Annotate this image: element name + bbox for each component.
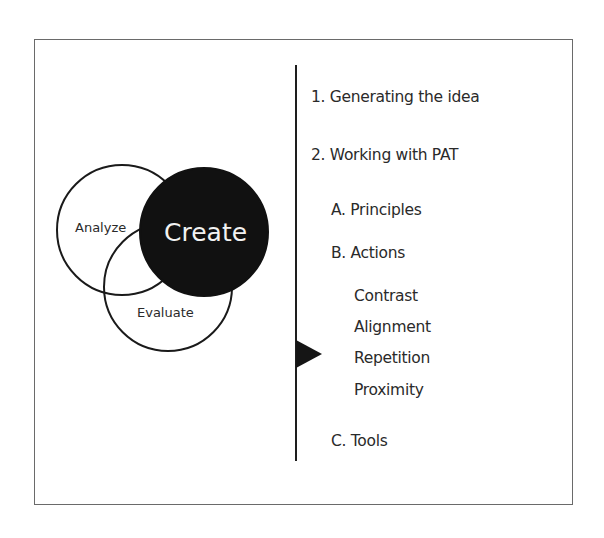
outline-item-contrast: Contrast bbox=[354, 286, 418, 306]
outline-item-tools: C. Tools bbox=[331, 431, 387, 451]
vertical-divider bbox=[295, 65, 297, 461]
outline-item-actions: B. Actions bbox=[331, 243, 405, 263]
outline-item-proximity: Proximity bbox=[354, 380, 424, 400]
create-label: Create bbox=[164, 218, 247, 247]
outline-item-principles: A. Principles bbox=[331, 200, 421, 220]
current-position-marker-icon bbox=[296, 340, 322, 368]
evaluate-label: Evaluate bbox=[137, 305, 194, 320]
outline-item-alignment: Alignment bbox=[354, 317, 431, 337]
outline-item-generating-idea: 1. Generating the idea bbox=[311, 87, 479, 107]
analyze-label: Analyze bbox=[75, 220, 126, 235]
venn-diagram: Analyze Create Evaluate bbox=[0, 0, 604, 538]
outline-item-repetition: Repetition bbox=[354, 348, 430, 368]
outline-item-working-with-pat: 2. Working with PAT bbox=[311, 145, 458, 165]
